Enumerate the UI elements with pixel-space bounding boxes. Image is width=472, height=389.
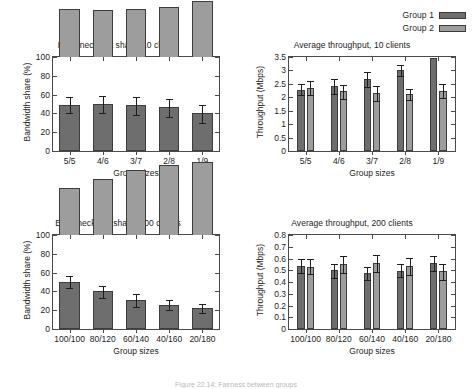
bar-group-2 [192,162,213,235]
error-bar-cap [340,256,347,257]
y-tick-label: 100 [36,230,50,240]
y-tick-label: 0.5 [274,265,286,275]
y-tick-label: 1.5 [274,106,286,116]
error-bar-cap [298,84,305,85]
error-bar-cap [199,304,206,305]
error-bar-cap [364,280,371,281]
error-bar-cap [364,267,371,268]
y-tick-label: 0.2 [274,301,286,311]
error-bar-cap [430,256,437,257]
bar-group-2 [373,93,380,151]
bar-group-1 [331,86,338,151]
y-tick [451,124,455,125]
y-tick [451,151,455,152]
y-tick [289,317,293,318]
error-bar-cap [340,99,347,100]
x-axis-title-throughput-200: Group sizes [288,346,456,356]
legend-entry-group-1: Group 1 [403,10,466,20]
legend-label-group-1: Group 1 [403,10,434,20]
x-tick [405,57,406,61]
y-tick-label: 3.5 [274,52,286,62]
x-tick-label: 3/7 [366,156,378,166]
y-tick [451,70,455,71]
y-tick-label: 80 [41,71,50,81]
y-tick [53,57,57,58]
error-bar [169,99,170,117]
bar-group-1 [397,271,404,329]
error-bar-cap [166,310,173,311]
x-tick [372,329,373,333]
error-bar [367,72,368,87]
x-tick-label: 2/8 [399,156,411,166]
y-tick [289,138,293,139]
error-bar [310,259,311,274]
error-bar-cap [99,96,106,97]
error-bar-cap [364,72,371,73]
error-bar [410,258,411,274]
error-bar-cap [307,274,314,275]
y-axis-title-throughput-200: Throughput (Mbps) [255,220,265,340]
y-tick [289,306,293,307]
y-tick [289,111,293,112]
y-tick-label: 0 [281,146,286,156]
x-tick [202,329,203,333]
y-tick [53,310,57,311]
y-tick [451,247,455,248]
error-bar-cap [199,123,206,124]
y-tick [289,235,293,236]
y-tick [215,132,219,133]
y-tick [215,273,219,274]
error-bar-cap [439,280,446,281]
bar-group-2 [59,9,80,57]
y-tick [53,151,57,152]
y-tick-label: 100 [36,52,50,62]
plot-area-bottleneck-200: 020406080100100/10080/12060/14040/16020/… [52,234,220,330]
error-bar-cap [373,272,380,273]
y-axis-title-bottleneck-200: Bandwidth share (%) [22,220,32,340]
y-tick-label: 40 [41,108,50,118]
y-tick [53,254,57,255]
y-tick [215,310,219,311]
error-bar-cap [66,288,73,289]
legend-swatch-group-2 [439,25,466,32]
error-bar [367,267,368,279]
y-tick [289,270,293,271]
bars-layer-bottleneck-10: 0204060801005/54/63/72/81/9 [53,57,219,151]
y-tick [215,329,219,330]
y-tick [289,247,293,248]
y-tick [53,291,57,292]
x-tick [438,151,439,155]
x-tick-label: 5/5 [300,156,312,166]
error-bar [377,86,378,101]
x-tick [103,57,104,61]
y-tick [215,151,219,152]
error-bar-cap [373,101,380,102]
y-tick [451,282,455,283]
y-tick [215,95,219,96]
bars-layer-throughput-200: 00.10.20.30.40.50.60.70.8100/10080/12060… [289,235,455,329]
error-bar-cap [133,115,140,116]
error-bar [70,276,71,287]
error-bar-cap [133,307,140,308]
x-tick [306,329,307,333]
bar-group-2 [373,263,380,329]
y-tick [53,113,57,114]
bar-group-2 [159,7,180,57]
error-bar [301,259,302,273]
y-tick-label: 40 [41,286,50,296]
panel-throughput-200: Average throughput, 200 clients 00.10.20… [240,218,464,358]
error-bar-cap [298,273,305,274]
error-bar-cap [99,113,106,114]
x-tick [169,235,170,239]
error-bar-cap [133,97,140,98]
error-bar-cap [199,105,206,106]
error-bar-cap [166,300,173,301]
y-tick [451,97,455,98]
error-bar-cap [331,79,338,80]
y-tick [289,282,293,283]
y-tick [451,138,455,139]
bar-group-2 [307,267,314,330]
x-tick [438,329,439,333]
y-axis-title-bottleneck-10: Bandwidth share (%) [22,42,32,162]
y-tick-label: 1 [281,119,286,129]
